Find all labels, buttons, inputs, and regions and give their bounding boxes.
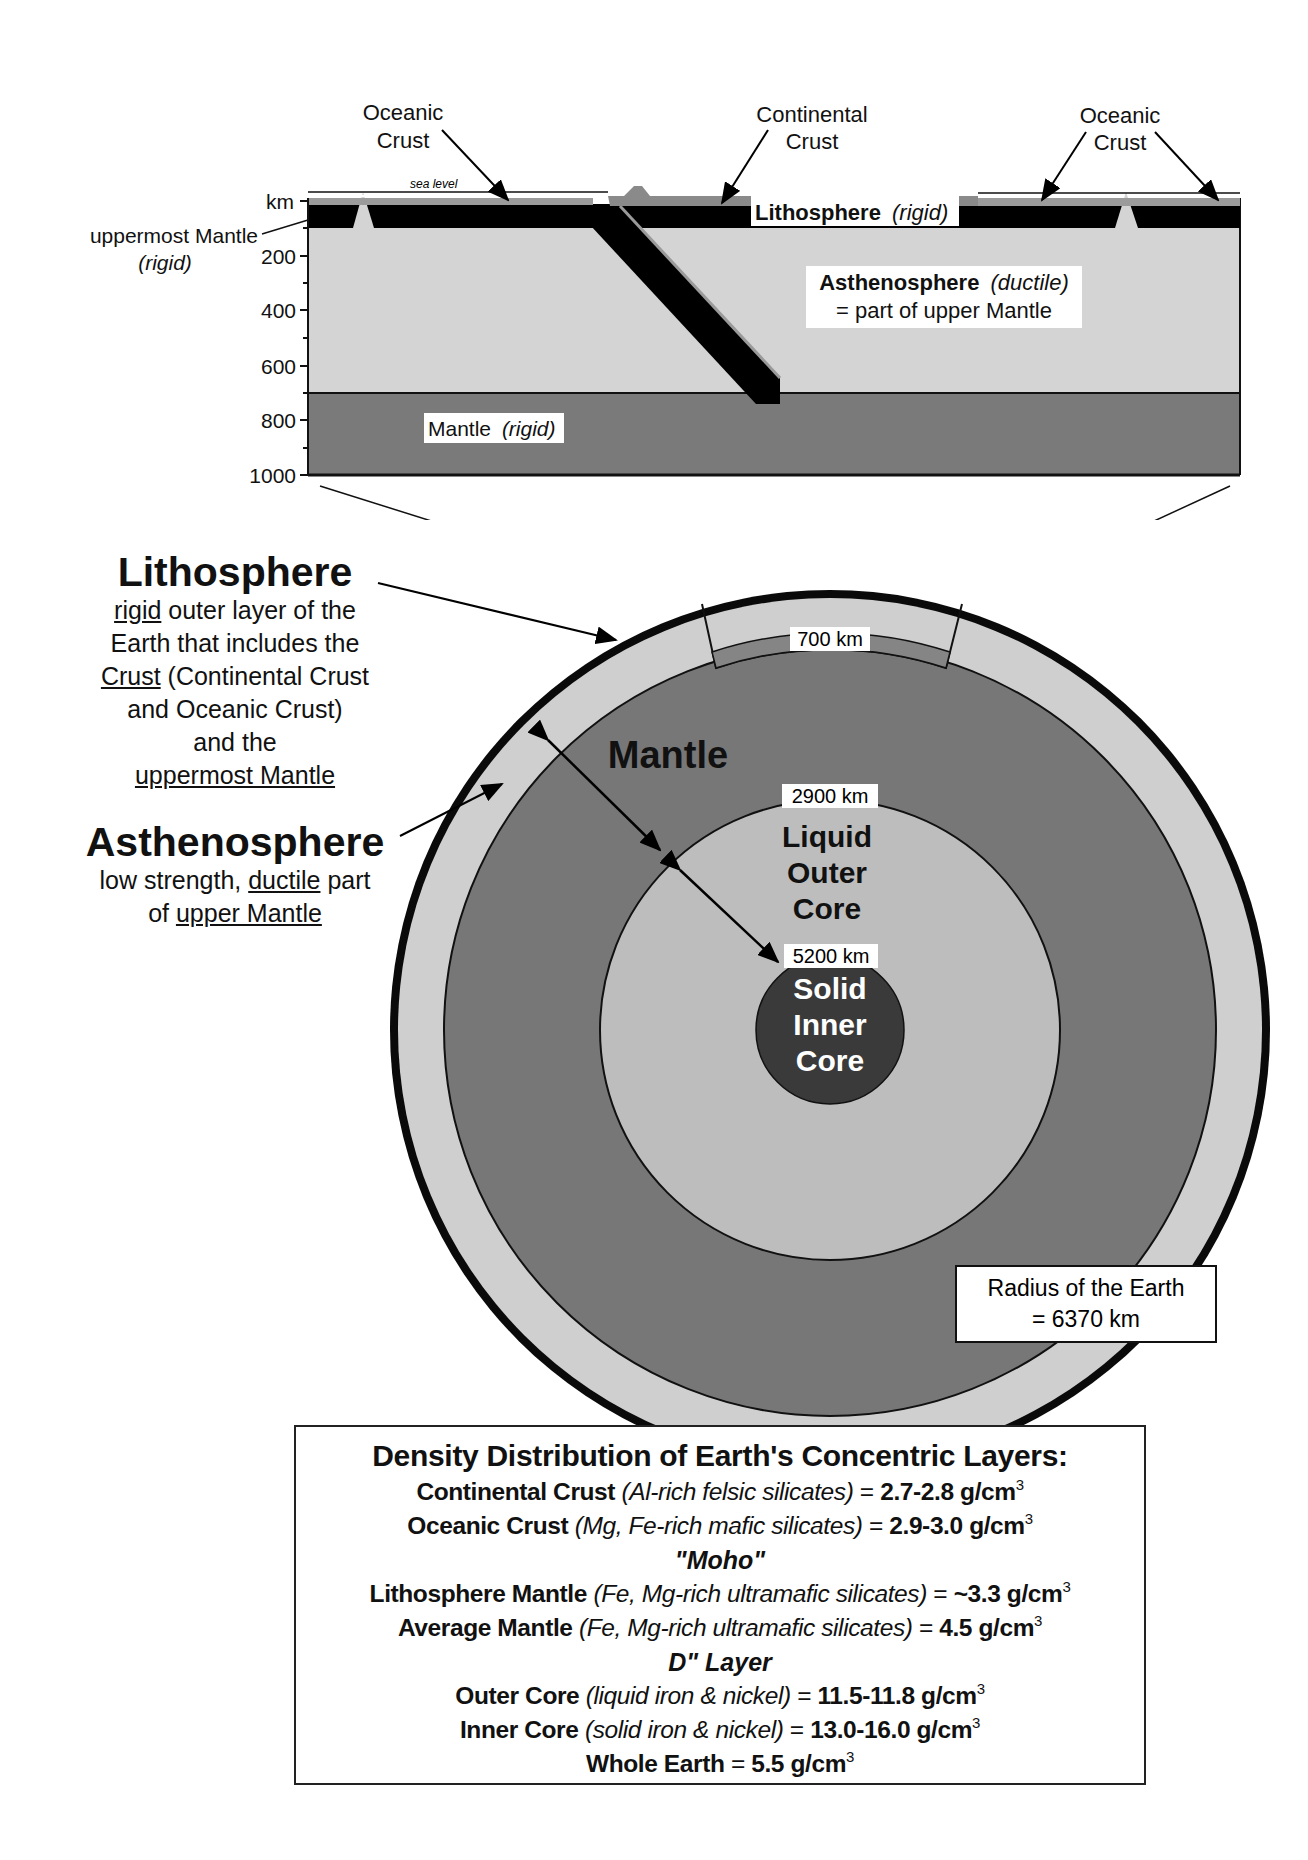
arrow-oceanic-crust-right-b [1155, 132, 1218, 200]
density-row-average-mantle: Average Mantle (Fe, Mg-rich ultramafic s… [296, 1611, 1144, 1645]
outer-core-label-3: Core [793, 892, 861, 925]
lithosphere-desc-line-3: Crust (Continental Crust [70, 660, 400, 693]
uppermost-mantle-pointer [262, 220, 308, 234]
asthenosphere-inline-label: Asthenosphere (ductile) [819, 270, 1069, 295]
density-table: Density Distribution of Earth's Concentr… [294, 1425, 1146, 1785]
density-row-outer-core: Outer Core (liquid iron & nickel) = 11.5… [296, 1679, 1144, 1713]
lithosphere-desc-line-4: and Oceanic Crust) [70, 693, 400, 726]
continental-crust-line2: Crust [786, 129, 839, 154]
lithosphere-desc-line-6: uppermost Mantle [70, 759, 400, 792]
continental-crust-line1: Continental [756, 102, 867, 127]
asthenosphere-description: Asthenosphere low strength, ductile part… [70, 820, 400, 930]
tick-600: 600 [261, 355, 296, 378]
axis-unit-km: km [266, 190, 294, 213]
depth-label-2900: 2900 km [792, 785, 869, 807]
oceanic-crust-right-line1: Oceanic [1080, 103, 1161, 128]
outer-core-label-1: Liquid [782, 820, 872, 853]
density-separator-moho: "Moho" [296, 1543, 1144, 1577]
density-row-whole-earth: Whole Earth = 5.5 g/cm3 [296, 1747, 1144, 1781]
asthenosphere-inline-note: = part of upper Mantle [836, 298, 1052, 323]
depth-label-700: 700 km [797, 628, 863, 650]
inner-core-label-3: Core [796, 1044, 864, 1077]
arrow-oceanic-crust-right-a [1042, 132, 1086, 200]
density-row-continental-crust: Continental Crust (Al-rich felsic silica… [296, 1475, 1144, 1509]
oceanic-crust-left-line1: Oceanic [363, 100, 444, 125]
globe-mantle-label: Mantle [608, 734, 728, 776]
lithosphere-desc-line-2: Earth that includes the [70, 627, 400, 660]
arrow-continental-crust [722, 130, 768, 203]
tick-400: 400 [261, 299, 296, 322]
sea-level-label: sea level [410, 177, 458, 191]
density-separator-d-layer: D" Layer [296, 1645, 1144, 1679]
lithosphere-inline-label: Lithosphere (rigid) [755, 200, 948, 225]
lithosphere-desc-line-5: and the [70, 726, 400, 759]
zoom-line-left [320, 486, 686, 520]
mantle-rigid-inline-label: Mantle (rigid) [428, 417, 556, 440]
uppermost-mantle-rigid: (rigid) [138, 251, 192, 274]
density-row-inner-core: Inner Core (solid iron & nickel) = 13.0-… [296, 1713, 1144, 1747]
density-table-title: Density Distribution of Earth's Concentr… [296, 1437, 1144, 1475]
asthenosphere-desc-line-1: low strength, ductile part [70, 864, 400, 897]
lithosphere-desc-line-1: rigid outer layer of the [70, 594, 400, 627]
lithosphere-heading: Lithosphere [70, 550, 400, 594]
inner-core-label-2: Inner [793, 1008, 867, 1041]
inner-core-label-1: Solid [793, 972, 866, 1005]
radius-label-1: Radius of the Earth [988, 1275, 1185, 1301]
zoom-line-right [972, 486, 1230, 520]
tick-200: 200 [261, 245, 296, 268]
oceanic-crust-right-line2: Crust [1094, 130, 1147, 155]
asthenosphere-desc-line-2: of upper Mantle [70, 897, 400, 930]
tick-800: 800 [261, 409, 296, 432]
density-row-lithosphere-mantle: Lithosphere Mantle (Fe, Mg-rich ultramaf… [296, 1577, 1144, 1611]
oceanic-crust-left-line2: Crust [377, 128, 430, 153]
asthenosphere-heading: Asthenosphere [70, 820, 400, 864]
depth-label-5200: 5200 km [793, 945, 870, 967]
outer-core-label-2: Outer [787, 856, 867, 889]
asthenosphere-layer [308, 228, 1240, 393]
lithosphere-description: Lithosphere rigid outer layer of the Ear… [70, 550, 400, 792]
cross-section-diagram: sea level km 200 400 600 800 1000 upperm… [0, 0, 1308, 520]
radius-label-2: = 6370 km [1032, 1306, 1140, 1332]
uppermost-mantle-label: uppermost Mantle [90, 224, 258, 247]
depth-ticks [300, 201, 308, 475]
tick-1000: 1000 [249, 464, 296, 487]
pointer-lithosphere [378, 583, 616, 640]
density-row-oceanic-crust: Oceanic Crust (Mg, Fe-rich mafic silicat… [296, 1509, 1144, 1543]
